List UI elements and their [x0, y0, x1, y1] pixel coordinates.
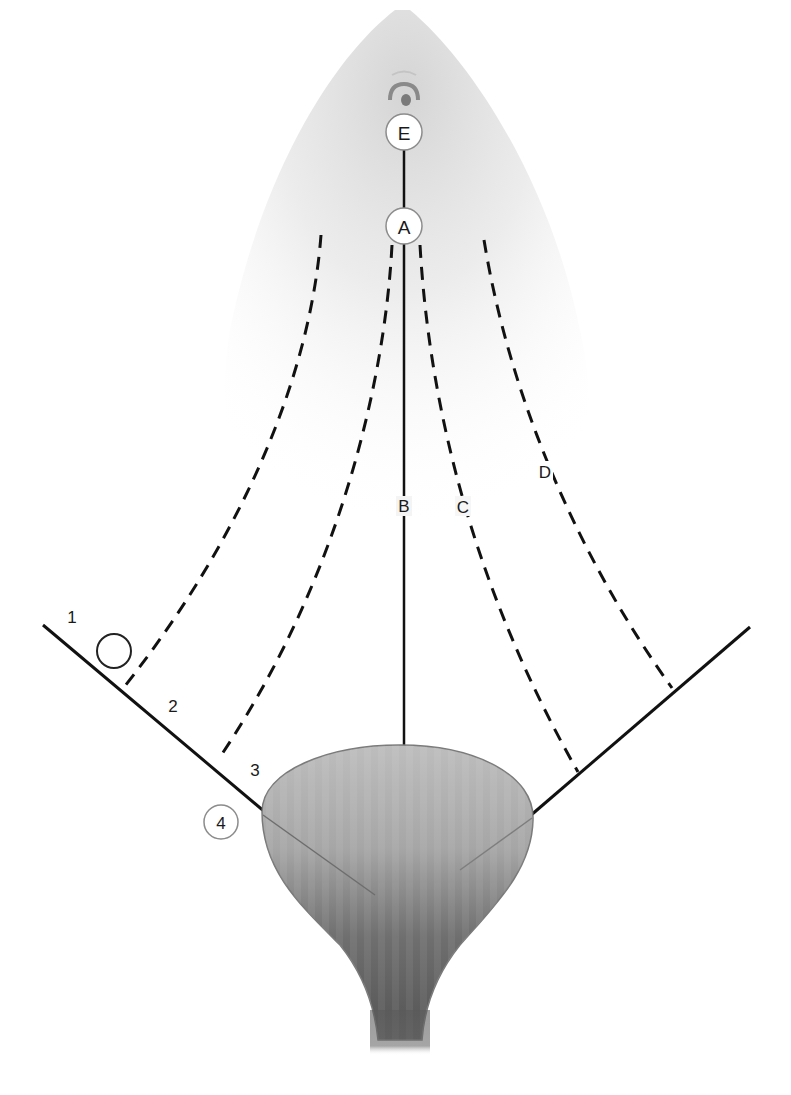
point-a-label: A	[398, 217, 411, 238]
zone-number-2: 2	[168, 697, 177, 716]
left-oblique-line	[43, 625, 265, 812]
point-a-marker: A	[386, 208, 422, 244]
marker-circle	[97, 634, 131, 668]
diagram-canvas: E A B C D 1 2 3 4	[0, 0, 791, 1095]
point-e-label: E	[398, 123, 411, 144]
circled-number-4: 4	[204, 805, 238, 839]
zone-number-3: 3	[250, 761, 259, 780]
haze-plume	[225, 10, 589, 560]
path-b-label: B	[398, 497, 409, 516]
diagram-svg: E A B C D 1 2 3 4	[0, 0, 791, 1095]
path-d-label: D	[539, 463, 551, 482]
path-c-label: C	[457, 498, 469, 517]
right-oblique-line	[530, 627, 750, 816]
organ-bladder	[262, 745, 533, 1055]
zone-number-1: 1	[67, 608, 76, 627]
point-e-marker: E	[386, 114, 422, 150]
circled-number-4-label: 4	[216, 814, 225, 833]
